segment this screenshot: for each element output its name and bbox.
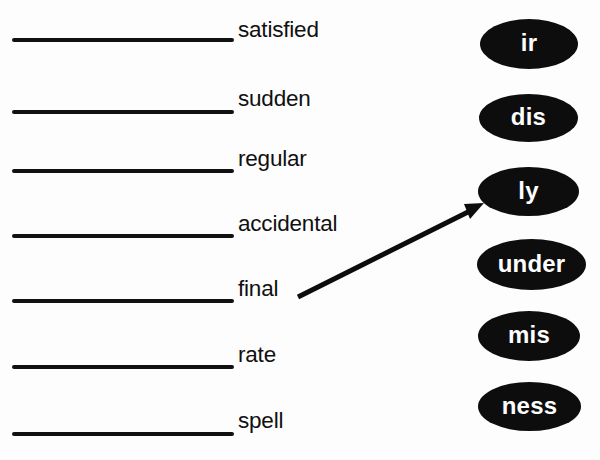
word-row: final	[0, 278, 420, 318]
affix-token-mis[interactable]: mis	[478, 311, 580, 361]
affix-label: ly	[518, 177, 538, 205]
word-row: spell	[0, 410, 420, 450]
word-label: rate	[238, 344, 276, 367]
word-label: satisfied	[238, 19, 319, 42]
word-label: final	[238, 278, 278, 301]
affix-label: dis	[511, 103, 546, 131]
affix-label: under	[498, 250, 566, 278]
affix-token-under[interactable]: under	[477, 239, 586, 290]
affix-token-ly[interactable]: ly	[478, 167, 579, 216]
word-label: accidental	[238, 213, 337, 236]
affix-label: ir	[521, 29, 537, 57]
answer-blank-line[interactable]	[12, 169, 234, 173]
affix-token-dis[interactable]: dis	[479, 94, 578, 142]
answer-blank-line[interactable]	[12, 365, 234, 369]
connector-arrow-head	[464, 203, 484, 219]
answer-blank-line[interactable]	[12, 432, 234, 436]
affix-token-ir[interactable]: ir	[480, 19, 578, 69]
word-row: rate	[0, 344, 420, 384]
word-label: regular	[238, 148, 307, 171]
word-row: accidental	[0, 213, 420, 253]
affix-label: ness	[502, 392, 558, 420]
word-label: spell	[238, 410, 283, 433]
answer-blank-line[interactable]	[12, 299, 234, 303]
word-label: sudden	[238, 88, 311, 111]
affix-label: mis	[508, 321, 550, 349]
affix-token-ness[interactable]: ness	[478, 382, 581, 431]
answer-blank-line[interactable]	[12, 38, 234, 42]
word-row: satisfied	[0, 19, 420, 59]
worksheet-canvas: satisfied sudden regular accidental fina…	[0, 0, 600, 460]
answer-blank-line[interactable]	[12, 234, 234, 238]
answer-blank-line[interactable]	[12, 110, 234, 114]
word-row: regular	[0, 148, 420, 188]
word-row: sudden	[0, 88, 420, 128]
